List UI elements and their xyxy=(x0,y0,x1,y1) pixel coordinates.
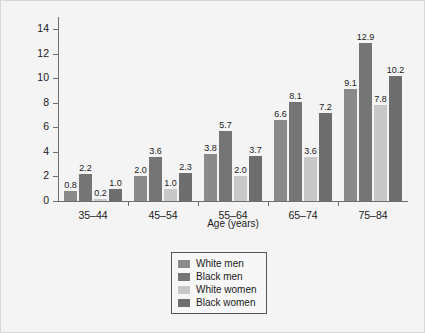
bar-value-label: 7.8 xyxy=(374,94,387,104)
bar-value-label: 10.2 xyxy=(387,65,405,75)
bar-value-label: 2.0 xyxy=(234,165,247,175)
x-group-separator xyxy=(268,201,269,206)
y-axis-line xyxy=(58,17,59,201)
legend-swatch-icon xyxy=(178,273,190,281)
legend-item[interactable]: Black women xyxy=(178,296,257,309)
y-tick-mark xyxy=(53,29,58,30)
bar: 5.7 xyxy=(219,131,232,201)
x-group-separator xyxy=(128,201,129,206)
legend-swatch-icon xyxy=(178,260,190,268)
bar-value-label: 1.0 xyxy=(164,178,177,188)
bar: 2.3 xyxy=(179,173,192,201)
bar-value-label: 2.2 xyxy=(79,163,92,173)
bar-value-label: 8.1 xyxy=(289,91,302,101)
bar: 10.2 xyxy=(389,76,402,201)
bar: 3.7 xyxy=(249,156,262,201)
y-tick-mark xyxy=(53,152,58,153)
bar-value-label: 3.6 xyxy=(149,146,162,156)
y-tick-mark xyxy=(53,103,58,104)
legend-label: Black men xyxy=(196,271,243,282)
bar: 7.2 xyxy=(319,113,332,201)
bar: 6.6 xyxy=(274,120,287,201)
bar-value-label: 3.6 xyxy=(304,146,317,156)
legend-swatch-icon xyxy=(178,299,190,307)
bar-group: 9.112.97.810.2 xyxy=(344,17,402,201)
bar: 3.6 xyxy=(304,157,317,201)
bar: 3.8 xyxy=(204,154,217,201)
chart-figure: Per 1,000 Person Years 02468101214 0.82.… xyxy=(0,0,425,333)
bar-value-label: 2.3 xyxy=(179,162,192,172)
bar: 8.1 xyxy=(289,102,302,201)
bar-value-label: 3.7 xyxy=(249,145,262,155)
bar: 2.0 xyxy=(134,176,147,201)
legend-item[interactable]: White men xyxy=(178,257,257,270)
bar-value-label: 9.1 xyxy=(344,78,357,88)
y-tick-label: 2 xyxy=(43,169,49,181)
bar-group: 0.82.20.21.0 xyxy=(64,17,122,201)
bar: 7.8 xyxy=(374,105,387,201)
y-tick-label: 12 xyxy=(37,47,49,59)
legend-swatch-icon xyxy=(178,286,190,294)
bar-group: 2.03.61.02.3 xyxy=(134,17,192,201)
x-axis-title: Age (years) xyxy=(58,218,408,229)
y-tick-mark xyxy=(53,127,58,128)
bar-value-label: 12.9 xyxy=(357,32,375,42)
bar-value-label: 1.0 xyxy=(109,178,122,188)
legend-item[interactable]: Black men xyxy=(178,270,257,283)
bar: 2.2 xyxy=(79,174,92,201)
y-tick-label: 4 xyxy=(43,145,49,157)
bar-value-label: 0.8 xyxy=(64,180,77,190)
bar: 2.0 xyxy=(234,176,247,201)
legend-label: White women xyxy=(196,284,257,295)
y-tick-mark xyxy=(53,78,58,79)
x-group-separator xyxy=(198,201,199,206)
x-axis-line xyxy=(58,201,408,202)
y-tick-label: 6 xyxy=(43,120,49,132)
bar: 9.1 xyxy=(344,89,357,201)
bar: 1.0 xyxy=(164,189,177,201)
bar-value-label: 2.0 xyxy=(134,165,147,175)
y-tick-label: 10 xyxy=(37,71,49,83)
y-tick-mark xyxy=(53,54,58,55)
y-tick-mark xyxy=(53,176,58,177)
bar: 1.0 xyxy=(109,189,122,201)
y-tick-mark xyxy=(53,201,58,202)
bar: 0.8 xyxy=(64,191,77,201)
bar-value-label: 7.2 xyxy=(319,102,332,112)
legend-label: White men xyxy=(196,258,244,269)
x-group-separator xyxy=(338,201,339,206)
plot-area: 02468101214 0.82.20.21.02.03.61.02.33.85… xyxy=(58,17,408,201)
y-tick-label: 0 xyxy=(43,194,49,206)
legend-label: Black women xyxy=(196,297,255,308)
bar: 3.6 xyxy=(149,157,162,201)
bar: 0.2 xyxy=(94,199,107,201)
bar-value-label: 6.6 xyxy=(274,109,287,119)
bar: 12.9 xyxy=(359,43,372,201)
bar-group: 6.68.13.67.2 xyxy=(274,17,332,201)
y-tick-label: 14 xyxy=(37,22,49,34)
bar-group: 3.85.72.03.7 xyxy=(204,17,262,201)
bar-value-label: 0.2 xyxy=(94,188,107,198)
bar-value-label: 3.8 xyxy=(204,143,217,153)
legend-item[interactable]: White women xyxy=(178,283,257,296)
y-tick-label: 8 xyxy=(43,96,49,108)
chart-legend: White menBlack menWhite womenBlack women xyxy=(171,252,267,314)
bar-value-label: 5.7 xyxy=(219,120,232,130)
